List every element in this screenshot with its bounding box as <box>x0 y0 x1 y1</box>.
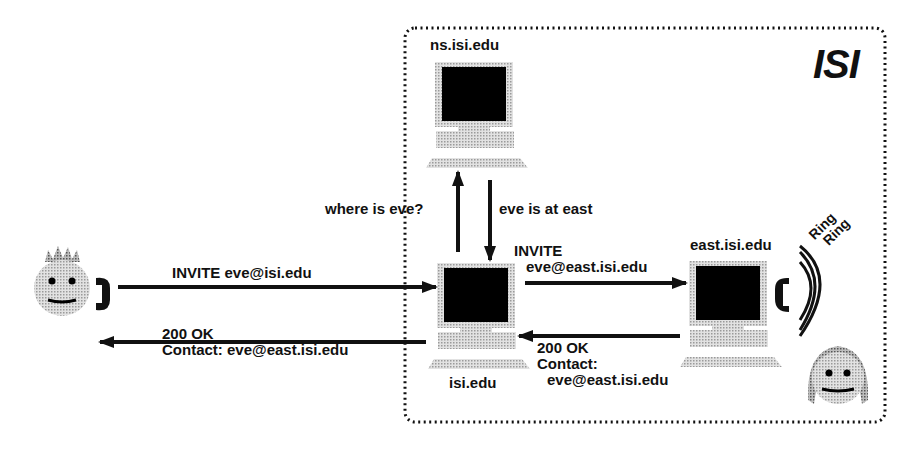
east-host-label: east.isi.edu <box>690 237 772 253</box>
msg-ok-caller-contact: Contact: eve@east.isi.edu <box>162 342 348 358</box>
ns-host-label: ns.isi.edu <box>430 37 499 53</box>
msg-ok-east-status: 200 OK <box>537 340 668 356</box>
msg-query: where is eve? <box>325 201 423 217</box>
msg-invite-east: INVITE eve@east.isi.edu <box>514 243 647 275</box>
msg-ok-east-contact-label: Contact: <box>537 356 668 372</box>
msg-ok-east: 200 OK Contact: eve@east.isi.edu <box>537 340 668 388</box>
msg-ok-caller-status: 200 OK <box>162 326 348 342</box>
msg-ok-east-contact-uri: eve@east.isi.edu <box>547 372 668 388</box>
proxy-host-label: isi.edu <box>449 375 497 391</box>
callee-phone-icon <box>775 278 789 312</box>
ring-waves-icon <box>800 246 820 336</box>
caller-phone-icon <box>96 278 110 311</box>
caller-face-icon <box>34 246 90 316</box>
msg-invite-east-uri: eve@east.isi.edu <box>526 259 647 275</box>
msg-answer: eve is at east <box>499 201 592 217</box>
isi-domain-title: ISI <box>813 42 859 87</box>
east-computer-icon <box>680 261 782 367</box>
proxy-computer-icon <box>428 263 530 369</box>
callee-face-icon <box>808 346 868 404</box>
msg-invite-east-method: INVITE <box>514 243 647 259</box>
msg-ok-caller: 200 OK Contact: eve@east.isi.edu <box>162 326 348 358</box>
msg-invite-caller: INVITE eve@isi.edu <box>172 265 312 281</box>
ns-computer-icon <box>426 62 528 168</box>
